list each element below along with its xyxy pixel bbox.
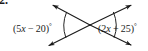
ray-lower-left <box>49 25 90 46</box>
degree-symbol-icon-left: ° <box>49 22 52 30</box>
ray-upper-left <box>53 5 90 25</box>
angle-label-left: (5x − 20)° <box>13 23 52 34</box>
angle-label-left-operator: − <box>25 23 35 34</box>
angle-label-right-operator: + <box>110 23 120 34</box>
degree-symbol-icon-right: ° <box>134 22 137 30</box>
angle-label-right: (2x + 25)° <box>98 23 137 34</box>
geometry-figure: 2. (5x − 20)° (2x <box>0 0 148 51</box>
angle-label-left-constant: 20 <box>36 23 46 34</box>
angle-label-right-constant: 25 <box>121 23 131 34</box>
arc-left-angle <box>64 12 67 37</box>
